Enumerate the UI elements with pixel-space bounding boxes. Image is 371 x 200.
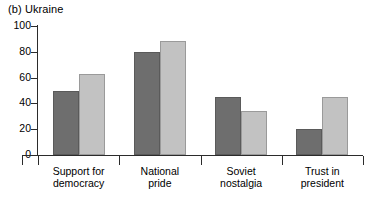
- category-label-line: National: [141, 165, 180, 177]
- bar-chart: (b) Ukraine 100806040200 Support fordemo…: [0, 0, 371, 200]
- bar-group: [296, 26, 348, 155]
- y-axis-tick-label: 40: [19, 96, 31, 108]
- category-label: Nationalpride: [119, 165, 200, 189]
- bar: [215, 97, 241, 155]
- bar: [134, 52, 160, 155]
- y-axis-tick-label: 100: [13, 19, 31, 31]
- category-separator: [119, 156, 120, 165]
- category-label-line: president: [282, 177, 363, 189]
- category-separator: [22, 156, 23, 165]
- bar-group: [53, 26, 105, 155]
- category-separator: [201, 156, 202, 165]
- y-axis-tick-label: 0: [25, 148, 31, 160]
- bar: [79, 74, 105, 155]
- bar: [241, 111, 267, 155]
- category-label-line: Soviet: [227, 165, 256, 177]
- category-label: Support fordemocracy: [38, 165, 119, 189]
- bar: [160, 41, 186, 155]
- y-axis-tick-label: 80: [19, 45, 31, 57]
- category-label-line: Trust in: [305, 165, 340, 177]
- category-label-line: pride: [119, 177, 200, 189]
- y-axis: 100806040200: [0, 0, 37, 200]
- category-label: Sovietnostalgia: [201, 165, 282, 189]
- category-label-line: Support for: [53, 165, 105, 177]
- category-label-line: democracy: [38, 177, 119, 189]
- bar: [322, 97, 348, 155]
- category-label-line: nostalgia: [201, 177, 282, 189]
- bar-group: [134, 26, 186, 155]
- y-axis-tick-label: 20: [19, 122, 31, 134]
- category-label: Trust inpresident: [282, 165, 363, 189]
- bar-group: [215, 26, 267, 155]
- category-separator: [38, 156, 39, 165]
- x-axis-line: [22, 155, 363, 156]
- bar: [296, 129, 322, 155]
- y-axis-tick-label: 60: [19, 71, 31, 83]
- category-separator: [282, 156, 283, 165]
- bar: [53, 91, 79, 156]
- category-separator: [363, 156, 364, 165]
- plot-area: [38, 26, 363, 155]
